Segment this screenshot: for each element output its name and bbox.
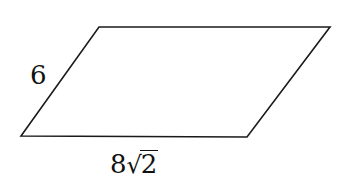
square-root: √2 [127, 150, 159, 177]
parallelogram [21, 27, 330, 137]
radicand: 2 [140, 150, 159, 177]
base-length-label: 8√2 [110, 150, 158, 177]
side-length-label: 6 [30, 62, 47, 88]
parallelogram-figure [0, 0, 340, 184]
base-coefficient: 8 [110, 149, 127, 179]
